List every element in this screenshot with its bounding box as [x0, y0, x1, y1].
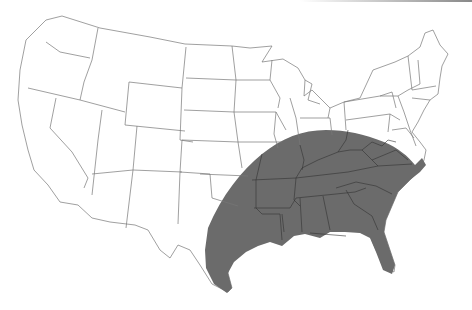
us-map [0, 0, 472, 310]
